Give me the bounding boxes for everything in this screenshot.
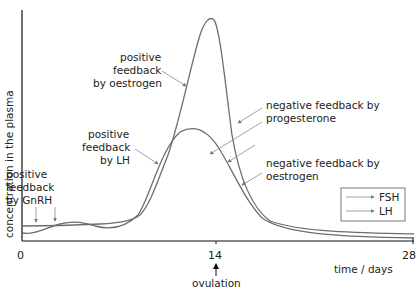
svg-text:feedback: feedback (6, 181, 55, 193)
ovulation-label: ovulation (192, 277, 241, 289)
y-axis-label: concentration in the plasma (3, 90, 15, 238)
x-tick-label-14: 14 (208, 249, 222, 262)
svg-text:by oestrogen: by oestrogen (93, 77, 162, 89)
annotation-lh: positive feedback by LH (82, 128, 158, 166)
x-axis-label: time / days (334, 263, 393, 275)
x-tick-label-28: 28 (402, 249, 416, 262)
svg-text:FSH: FSH (379, 191, 399, 203)
x-tick-label-0: 0 (17, 249, 24, 262)
fsh-curve (22, 129, 414, 238)
svg-text:oestrogen: oestrogen (266, 170, 319, 182)
svg-text:by GnRH: by GnRH (6, 194, 52, 206)
svg-text:feedback: feedback (82, 141, 131, 153)
svg-text:negative feedback by: negative feedback by (266, 157, 380, 169)
annotation-progesterone: negative feedback by progesterone (210, 99, 380, 154)
svg-text:LH: LH (379, 205, 393, 217)
svg-text:feedback: feedback (113, 64, 162, 76)
annotation-oestrogen-positive: positive feedback by oestrogen (93, 51, 186, 89)
hormone-chart: concentration in the plasma 0 14 28 time… (0, 0, 419, 290)
svg-text:negative feedback by: negative feedback by (266, 99, 380, 111)
svg-text:progesterone: progesterone (266, 112, 336, 124)
legend: FSH LH (341, 188, 405, 221)
svg-text:positive: positive (120, 51, 161, 63)
svg-text:positive: positive (88, 128, 129, 140)
svg-text:positive: positive (6, 168, 47, 180)
svg-text:by LH: by LH (100, 154, 130, 166)
annotation-oestrogen-negative: negative feedback by oestrogen (228, 145, 380, 185)
